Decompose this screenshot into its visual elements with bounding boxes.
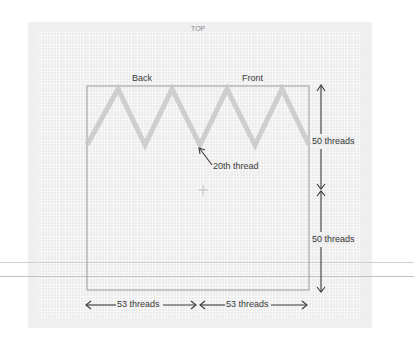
pattern-rectangle <box>87 86 309 290</box>
horizontal-right-label: 53 threads <box>226 300 269 309</box>
vertical-lower-label: 50 threads <box>312 235 355 244</box>
center-crosshair-icon <box>198 185 208 196</box>
zigzag-stitch <box>87 89 309 145</box>
pointer-arrow-icon <box>199 148 212 165</box>
vertical-upper-label: 50 threads <box>312 137 355 146</box>
pointer-label: 20th thread <box>213 162 259 171</box>
horizontal-left-label: 53 threads <box>117 300 160 309</box>
diagram-overlay <box>0 0 414 349</box>
